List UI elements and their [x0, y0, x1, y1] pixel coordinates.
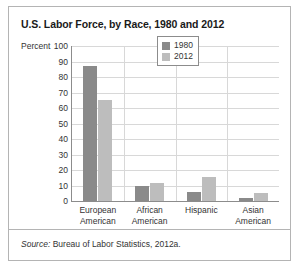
- x-axis-category-label: EuropeanAmerican: [79, 205, 116, 226]
- bar-group: AsianAmerican: [227, 46, 279, 201]
- bar-group: AfricanAmerican: [124, 46, 176, 201]
- x-axis-category-label: AfricanAmerican: [132, 205, 168, 226]
- source-divider: [9, 229, 290, 230]
- source-prefix: Source:: [21, 239, 50, 249]
- bar-1980-4: [239, 198, 253, 201]
- figure-container: U.S. Labor Force, by Race, 1980 and 2012…: [0, 0, 299, 268]
- bar-1980-1: [83, 66, 97, 201]
- x-axis-category-label: AsianAmerican: [235, 205, 271, 226]
- y-axis-tick: 60: [59, 104, 68, 113]
- figure-panel: U.S. Labor Force, by Race, 1980 and 2012…: [8, 6, 291, 261]
- source-note: Source: Bureau of Labor Statistics, 2012…: [21, 239, 181, 249]
- y-axis-tick: 50: [59, 119, 68, 128]
- y-axis-tick: 70: [59, 88, 68, 97]
- y-axis-tick: 0: [63, 197, 68, 206]
- source-text: Bureau of Labor Statistics, 2012a.: [50, 239, 180, 249]
- legend-label-2012: 2012: [174, 52, 193, 61]
- bar-1980-3: [187, 192, 201, 201]
- y-axis-tick: 40: [59, 135, 68, 144]
- bar-group: Hispanic: [176, 46, 228, 201]
- legend-item-1980: 1980: [162, 40, 193, 51]
- legend-item-2012: 2012: [162, 51, 193, 62]
- bar-1980-2: [135, 186, 149, 202]
- bar-2012-3: [202, 177, 216, 201]
- y-axis-tick: 100: [54, 42, 68, 51]
- chart-area: Percent 0102030405060708090100EuropeanAm…: [21, 39, 279, 224]
- bar-2012-4: [254, 193, 268, 201]
- y-axis-label: Percent: [21, 41, 50, 51]
- y-axis-tick: 90: [59, 57, 68, 66]
- page-title: U.S. Labor Force, by Race, 1980 and 2012: [21, 18, 224, 30]
- x-axis-category-label: Hispanic: [185, 205, 218, 216]
- legend-swatch-1980: [162, 42, 170, 50]
- y-axis-tick: 30: [59, 150, 68, 159]
- bar-2012-1: [98, 100, 112, 201]
- y-axis-tick: 20: [59, 166, 68, 175]
- plot-region: 0102030405060708090100EuropeanAmericanAf…: [71, 46, 279, 202]
- legend-swatch-2012: [162, 53, 170, 61]
- chart-legend: 1980 2012: [157, 36, 199, 66]
- y-axis-tick: 80: [59, 73, 68, 82]
- bar-group: EuropeanAmerican: [72, 46, 124, 201]
- y-axis-tick: 10: [59, 181, 68, 190]
- bar-2012-2: [150, 183, 164, 201]
- legend-label-1980: 1980: [174, 41, 193, 50]
